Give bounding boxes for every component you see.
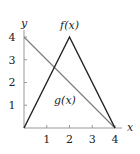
f-label: f(x) xyxy=(59,19,79,32)
y-tick-label-3: 3 xyxy=(9,54,16,67)
x-tick-label-2: 2 xyxy=(66,133,73,146)
x-tick-label-4: 4 xyxy=(112,133,119,146)
y-tick-label-1: 1 xyxy=(9,99,16,112)
y-tick-label-4: 4 xyxy=(9,31,16,44)
x-tick-label-3: 3 xyxy=(89,133,96,146)
y-axis-label: y xyxy=(20,17,28,30)
chart: 1 2 3 4 1 2 3 4 x y f(x) g(x) xyxy=(0,0,140,154)
x-tick-label-1: 1 xyxy=(43,133,50,146)
y-tick-label-2: 2 xyxy=(9,76,16,89)
x-axis-label: x xyxy=(127,121,134,134)
series-g xyxy=(24,37,115,128)
g-label: g(x) xyxy=(54,94,76,107)
